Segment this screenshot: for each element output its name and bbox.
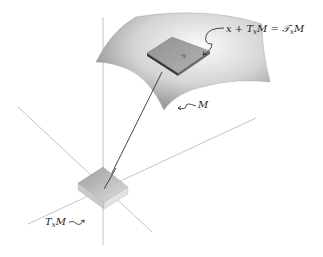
diagonal-axis-1	[18, 107, 152, 232]
tangent-space-label: TxM	[45, 217, 66, 229]
eq-part-3: M	[294, 23, 304, 34]
eq-part-2: M = 𝒯	[257, 23, 290, 34]
manifold-label: M	[198, 100, 208, 110]
tangent-T: T	[45, 216, 52, 227]
affine-tangent-equation-label: x + TxM = 𝒯xM	[226, 24, 304, 36]
manifold-M: M	[198, 99, 208, 110]
eq-part-1: x + T	[226, 23, 253, 34]
diagonal-axis-2	[28, 118, 256, 224]
point-x-label: ·x	[180, 52, 186, 60]
tangent-M: M	[56, 216, 66, 227]
position-vector	[104, 72, 162, 189]
